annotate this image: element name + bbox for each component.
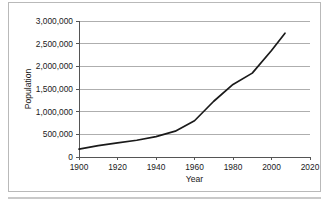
y-axis-tick-label: 2,500,000 [36,39,74,49]
gridlines-group [79,21,310,134]
x-axis-tick-label: 1900 [70,162,89,172]
x-axis-tick-labels: 1900192019401960198020002020 [70,162,320,172]
y-axis-tick-labels: 0500,0001,000,0001,500,0002,000,0002,500… [36,16,74,162]
x-axis-tick-label: 2020 [301,162,320,172]
y-axis-tick-label: 0 [68,152,73,162]
y-axis-title: Population [23,68,33,109]
x-axis-title: Year [186,174,204,184]
x-axis-tick-label: 1960 [185,162,204,172]
x-axis-tick-label: 1980 [224,162,243,172]
y-axis-tick-label: 1,500,000 [36,84,74,94]
figure-container: 0500,0001,000,0001,500,0002,000,0002,500… [0,0,329,205]
x-axis-tick-label: 1940 [147,162,166,172]
x-axis-tick-label: 1920 [108,162,127,172]
y-axis-tick-label: 2,000,000 [36,61,74,71]
y-axis-tick-label: 500,000 [43,129,74,139]
x-axis-tick-label: 2000 [262,162,281,172]
population-line-chart: 0500,0001,000,0001,500,0002,000,0002,500… [0,0,329,205]
y-axis-tick-label: 1,000,000 [36,107,74,117]
y-axis-tick-label: 3,000,000 [36,16,74,26]
population-series-line [79,33,285,149]
